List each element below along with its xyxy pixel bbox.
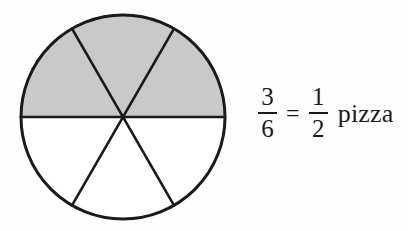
equals-sign: = [286, 101, 300, 125]
left-fraction-numerator: 3 [259, 84, 276, 110]
pizza-pie-chart [10, 0, 240, 231]
left-fraction-bar [258, 112, 277, 114]
unit-label-pizza: pizza [338, 101, 394, 127]
right-fraction-denominator: 2 [310, 116, 327, 142]
fraction-one-half: 1 2 [309, 84, 328, 143]
right-fraction-numerator: 1 [310, 84, 327, 110]
right-fraction-bar [309, 112, 328, 114]
figure-root: 3 6 = 1 2 pizza [0, 0, 408, 231]
left-fraction-denominator: 6 [259, 116, 276, 142]
unshaded-slices-group [21, 117, 225, 219]
shaded-slices-group [21, 15, 225, 117]
fraction-three-sixths: 3 6 [258, 84, 277, 143]
fraction-equation: 3 6 = 1 2 pizza [258, 84, 394, 142]
